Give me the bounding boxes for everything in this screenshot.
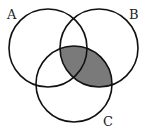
label-a: A — [6, 7, 17, 22]
label-c: C — [103, 114, 113, 129]
venn-diagram: A B C — [0, 0, 146, 129]
label-b: B — [129, 7, 139, 22]
